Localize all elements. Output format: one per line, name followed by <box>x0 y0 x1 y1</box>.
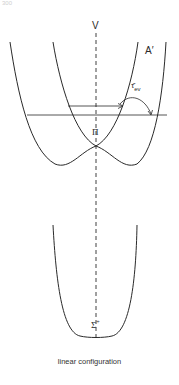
figure-caption: linear configuration <box>0 358 179 366</box>
transition-arrow <box>120 98 151 114</box>
sigma-state-label: Σ+ <box>91 319 100 330</box>
lower-sheet-curve <box>10 42 166 165</box>
energy-axis-label: V <box>92 21 99 31</box>
potential-curves-figure <box>0 0 179 385</box>
a-prime-label: A′ <box>145 46 154 56</box>
pi-state-label: Π <box>92 128 99 137</box>
transition-label: τ̂ev <box>131 82 141 92</box>
